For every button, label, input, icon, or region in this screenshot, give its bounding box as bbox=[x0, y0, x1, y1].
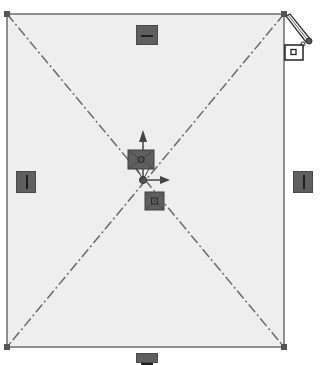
vertex-bottom-left[interactable] bbox=[4, 344, 10, 350]
vertex-top-left[interactable] bbox=[4, 11, 10, 17]
midpoint-relation-icon[interactable] bbox=[145, 192, 164, 210]
vertical-relation-left-icon[interactable] bbox=[16, 171, 36, 193]
sketch-pencil-cursor-icon bbox=[285, 14, 312, 60]
horizontal-relation-top-icon[interactable] bbox=[136, 25, 158, 45]
vertex-bottom-right[interactable] bbox=[281, 344, 287, 350]
coincident-relation-icon[interactable] bbox=[128, 150, 154, 169]
horizontal-relation-bottom-icon[interactable] bbox=[136, 353, 158, 363]
vertical-relation-right-icon[interactable] bbox=[293, 171, 313, 193]
